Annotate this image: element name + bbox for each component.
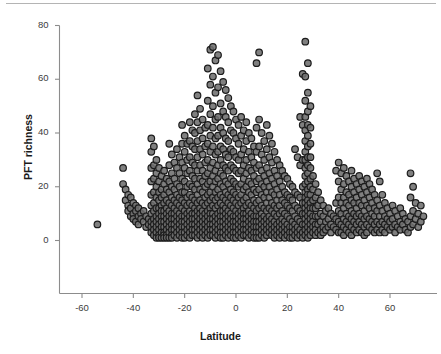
scatter-point bbox=[192, 111, 199, 118]
scatter-point bbox=[225, 138, 232, 145]
y-tick-label: 60 bbox=[0, 72, 49, 83]
scatter-point bbox=[407, 170, 414, 177]
x-tick-label: 40 bbox=[319, 302, 359, 313]
x-axis-label: Latitude bbox=[200, 330, 241, 342]
scatter-point bbox=[225, 95, 232, 102]
scatter-point bbox=[222, 87, 229, 94]
scatter-point bbox=[379, 192, 386, 199]
scatter-point bbox=[310, 173, 317, 180]
scatter-point bbox=[374, 170, 381, 177]
scatter-point bbox=[305, 89, 312, 96]
scatter-point bbox=[210, 44, 217, 51]
scatter-point bbox=[215, 52, 222, 59]
scatter-point bbox=[335, 159, 342, 166]
scatter-point bbox=[302, 38, 309, 45]
y-tick-label: 0 bbox=[0, 234, 49, 245]
scatter-point bbox=[307, 154, 314, 161]
scatter-point bbox=[161, 167, 168, 174]
scatter-point bbox=[258, 130, 265, 137]
scatter-point bbox=[307, 140, 314, 147]
scatter-point bbox=[256, 143, 263, 150]
scatter-point bbox=[181, 132, 188, 139]
scatter-point bbox=[169, 151, 176, 158]
scatter-point bbox=[215, 114, 222, 121]
scatter-point bbox=[179, 122, 186, 129]
scatter-point bbox=[220, 79, 227, 86]
scatter-point bbox=[407, 194, 414, 201]
scatter-point bbox=[256, 49, 263, 56]
scatter-point bbox=[253, 60, 260, 67]
scatter-point bbox=[235, 140, 242, 147]
scatter-point bbox=[238, 114, 245, 121]
y-tick-label: 80 bbox=[0, 19, 49, 30]
scatter-point bbox=[151, 143, 158, 150]
scatter-point bbox=[199, 151, 206, 158]
scatter-point bbox=[210, 124, 217, 131]
scatter-point bbox=[418, 202, 425, 209]
data-points-group bbox=[94, 38, 427, 241]
scatter-point bbox=[315, 189, 322, 196]
scatter-point bbox=[225, 154, 232, 161]
scatter-point bbox=[215, 84, 222, 91]
scatter-plot-figure: -60-40-200204060 020406080 Latitude PFT … bbox=[0, 0, 441, 354]
scatter-point bbox=[312, 181, 319, 188]
scatter-point bbox=[348, 167, 355, 174]
scatter-point bbox=[174, 146, 181, 153]
scatter-point bbox=[271, 149, 278, 156]
scatter-point bbox=[217, 68, 224, 75]
scatter-point bbox=[187, 119, 194, 126]
scatter-point bbox=[307, 103, 314, 110]
scatter-point bbox=[204, 97, 211, 104]
scatter-point bbox=[292, 146, 299, 153]
scatter-point bbox=[266, 132, 273, 139]
scatter-point bbox=[210, 103, 217, 110]
scatter-point bbox=[253, 124, 260, 131]
scatter-point bbox=[166, 140, 173, 147]
scatter-point bbox=[225, 119, 232, 126]
scatter-point bbox=[94, 221, 101, 228]
scatter-point bbox=[153, 157, 160, 164]
scatter-point bbox=[148, 135, 155, 142]
scatter-point bbox=[376, 178, 383, 185]
scatter-point bbox=[261, 138, 268, 145]
x-tick-label: -40 bbox=[113, 302, 153, 313]
x-tick-label: 60 bbox=[370, 302, 410, 313]
scatter-point bbox=[243, 119, 250, 126]
scatter-point bbox=[264, 146, 271, 153]
scatter-point bbox=[307, 124, 314, 131]
scatter-point bbox=[307, 165, 314, 172]
scatter-point bbox=[420, 213, 427, 220]
scatter-point bbox=[269, 140, 276, 147]
scatter-point bbox=[194, 92, 201, 99]
x-tick-label: 20 bbox=[267, 302, 307, 313]
scatter-point bbox=[305, 132, 312, 139]
scatter-point bbox=[120, 165, 127, 172]
scatter-point bbox=[230, 108, 237, 115]
scatter-point bbox=[199, 135, 206, 142]
scatter-point bbox=[207, 111, 214, 118]
scatter-point bbox=[302, 97, 309, 104]
scatter-point bbox=[256, 116, 263, 123]
x-tick-label: -60 bbox=[62, 302, 102, 313]
scatter-point bbox=[264, 122, 271, 129]
scatter-point bbox=[248, 135, 255, 142]
scatter-point bbox=[210, 73, 217, 80]
scatter-point bbox=[207, 81, 214, 88]
scatter-point bbox=[197, 106, 204, 113]
scatter-point bbox=[181, 149, 188, 156]
x-tick-label: 0 bbox=[216, 302, 256, 313]
y-axis-label: PFT richness bbox=[22, 114, 34, 180]
scatter-point bbox=[305, 60, 312, 67]
scatter-point bbox=[235, 122, 242, 129]
y-tick-label: 20 bbox=[0, 180, 49, 191]
scatter-point bbox=[199, 116, 206, 123]
scatter-point bbox=[341, 165, 348, 172]
scatter-point bbox=[217, 100, 224, 107]
scatter-point bbox=[410, 183, 417, 190]
scatter-point bbox=[204, 65, 211, 72]
scatter-point bbox=[302, 73, 309, 80]
x-tick-label: -20 bbox=[165, 302, 205, 313]
scatter-point bbox=[210, 143, 217, 150]
